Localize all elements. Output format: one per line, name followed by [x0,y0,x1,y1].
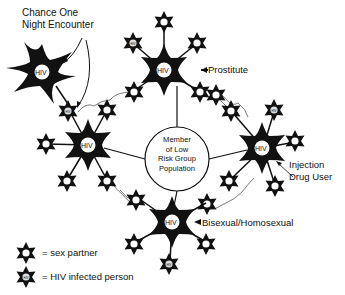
hub-right-badge: HIV [255,143,267,154]
hub-prostitute [124,11,210,103]
hub-chance-badge: HIV [35,67,47,78]
legend-icons [17,242,36,288]
drug-user-label-line1: Injection [289,159,324,170]
center-line-3: Risk Group [145,154,209,164]
chance-label-line2: Night Encounter [22,19,94,30]
center-label: Member of Low Risk Group Population [145,135,209,173]
legend-hiv-infected: = HIV infected person [42,271,134,282]
hub-right [198,84,305,215]
center-line-1: Member [145,135,209,145]
chance-label-line1: Chance One [22,7,78,18]
hub-bottom-badge: HIV [165,217,177,228]
hub-left [37,99,117,192]
drug-user-label-line2: Drug User [289,171,332,182]
center-line-2: of Low [145,145,209,155]
prostitute-label: Prostitute [208,64,248,75]
legend-sex-partner: = sex partner [42,247,98,258]
hub-left-badge: HIV [81,140,93,151]
center-line-4: Population [145,164,209,174]
encounter-arrows [64,38,90,106]
hub-top-badge: HIV [157,65,169,76]
bisexual-label: Bisexual/Homosexual [202,217,293,228]
